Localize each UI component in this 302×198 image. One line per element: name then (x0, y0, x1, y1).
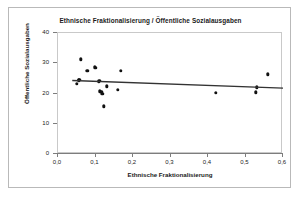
x-tick-label: 0,6 (278, 159, 286, 165)
x-axis-label: Ethnische Fraktionalisierung (57, 171, 283, 178)
x-tick-label: 0,5 (240, 159, 248, 165)
x-tick-mark (245, 153, 246, 157)
x-tick-mark (132, 153, 133, 157)
y-tick-mark (53, 93, 57, 94)
x-tick-label: 0,1 (90, 159, 98, 165)
chart-frame: Ethnische Fraktionalisierung / Öffentlic… (8, 7, 291, 188)
x-tick-label: 0,4 (203, 159, 211, 165)
plot-area (57, 32, 282, 153)
y-axis-label: Öffentliche Sozialausgaben (23, 14, 30, 114)
y-tick-label: 10 (9, 120, 49, 126)
chart-title: Ethnische Fraktionalisierung / Öffentlic… (9, 17, 292, 24)
x-tick-mark (95, 153, 96, 157)
x-tick-label: 0,2 (128, 159, 136, 165)
y-tick-label: 0 (9, 150, 49, 156)
trendline (58, 33, 283, 154)
y-tick-mark (53, 62, 57, 63)
x-tick-mark (282, 153, 283, 157)
x-tick-label: 0,3 (165, 159, 173, 165)
x-tick-mark (57, 153, 58, 157)
y-tick-mark (53, 32, 57, 33)
x-tick-mark (170, 153, 171, 157)
x-tick-label: 0,0 (53, 159, 61, 165)
y-tick-mark (53, 123, 57, 124)
x-tick-mark (207, 153, 208, 157)
